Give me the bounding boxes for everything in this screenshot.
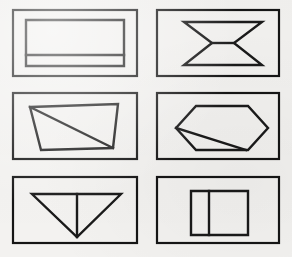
panel-5-frame <box>13 177 137 243</box>
panel-1 <box>13 10 137 76</box>
panel-3-diagonal <box>30 107 113 148</box>
shapes-figure <box>0 0 292 257</box>
panel-2 <box>157 10 279 76</box>
panel-3 <box>13 93 137 159</box>
panel-5 <box>13 177 137 243</box>
figure-sheet <box>0 0 292 257</box>
panel-1-shape-rectangle <box>26 20 124 66</box>
panel-6-shape-rectangle <box>191 191 248 235</box>
panel-6-frame <box>157 177 279 243</box>
panel-6 <box>157 177 279 243</box>
panel-4 <box>157 93 279 159</box>
